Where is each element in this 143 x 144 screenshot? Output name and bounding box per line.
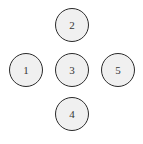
diagram-node-label: 1	[23, 64, 29, 75]
diagram-node-4[interactable]: 4	[55, 97, 89, 131]
diagram-node-label: 5	[115, 64, 121, 75]
diagram-node-label: 3	[69, 64, 75, 75]
diagram-node-label: 2	[69, 19, 75, 30]
diagram-canvas: 2 1 3 5 4	[0, 0, 143, 144]
diagram-node-3[interactable]: 3	[55, 53, 89, 87]
diagram-node-2[interactable]: 2	[55, 8, 89, 42]
diagram-node-1[interactable]: 1	[9, 53, 43, 87]
diagram-node-label: 4	[69, 108, 75, 119]
diagram-node-5[interactable]: 5	[101, 53, 135, 87]
